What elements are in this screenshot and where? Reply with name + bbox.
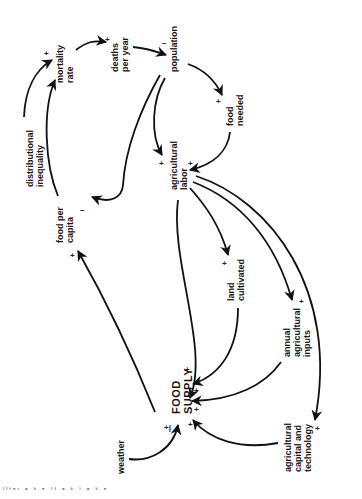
node-population: population (169, 26, 179, 72)
node-annual-agricultural-inputs: annual agricultural inputs (282, 308, 312, 357)
node-land-cultivated: land cultivated (226, 259, 246, 301)
link-food-needed-to-labor (190, 132, 230, 170)
link-food-per-capita-to-mortality (47, 80, 58, 196)
node-deaths-per-year: deaths per year (110, 37, 130, 72)
polarity-sign: + (315, 425, 320, 433)
link-population-to-food-needed (188, 64, 222, 95)
node-label-line: weather (116, 440, 126, 474)
link-land-to-food-supply (193, 308, 238, 384)
node-label-line: inequality (35, 130, 45, 187)
polarity-sign: + (185, 366, 190, 374)
node-agricultural-labor: agricultural labor (169, 141, 189, 190)
node-label-line: capita (65, 207, 75, 243)
figure-caption: ᴵᴵᵗᵉʳ ᵃ ᵏ ᵉ ⁽ᶠ ᵃ ᵏ ⁾ ᵃ ᵏ ᵉ (3, 486, 108, 494)
node-food-per-capita: food per capita (55, 207, 75, 243)
node-distributional-inequality: distributional inequality (25, 130, 45, 187)
node-label-line: SUPPLY (182, 368, 194, 414)
polarity-sign: +| (164, 424, 171, 432)
node-label-line: food per (55, 207, 65, 243)
polarity-sign: + (194, 387, 199, 395)
polarity-sign: + (188, 421, 193, 429)
polarity-sign: + (188, 160, 193, 168)
polarity-sign: + (299, 298, 304, 306)
node-weather: weather (116, 440, 126, 474)
polarity-sign: + (222, 260, 227, 268)
node-label-line: food (225, 94, 235, 126)
polarity-sign: + (44, 50, 49, 58)
node-label-line: agricultural (283, 423, 293, 472)
link-deaths-to-population (133, 47, 166, 55)
link-inputs-to-food-supply (192, 362, 281, 401)
polarity-sign: + (216, 98, 221, 106)
node-label-line: inputs (302, 308, 312, 357)
polarity-sign: + (70, 252, 75, 260)
node-label-line: agricultural (169, 141, 179, 190)
link-technology-to-food-supply (193, 420, 278, 445)
polarity-sign: − (162, 40, 167, 48)
polarity-sign: − (58, 76, 63, 84)
node-label-line: technology (303, 423, 313, 472)
node-food-supply: FOOD SUPPLY (170, 368, 194, 414)
node-label-line: agricultural (292, 308, 302, 357)
node-label-line: land (226, 259, 236, 301)
link-population-to-food-per-capita (92, 75, 160, 200)
polarity-sign: + (194, 406, 199, 414)
node-label-line: capital and (293, 423, 303, 472)
node-label-line: rate (65, 45, 75, 83)
node-label-line: needed (235, 94, 245, 126)
node-label-line: distributional (25, 130, 35, 187)
node-label-line: deaths (110, 37, 120, 72)
node-food-needed: food needed (225, 94, 245, 126)
node-agricultural-capital-and-technology: agricultural capital and technology (283, 423, 313, 472)
link-mortality-to-deaths (76, 41, 106, 50)
polarity-sign: + (105, 36, 110, 44)
polarity-sign: + (159, 160, 164, 168)
polarity-sign: − (80, 207, 85, 215)
node-label-line: cultivated (236, 259, 246, 301)
node-label-line: per year (120, 37, 130, 72)
link-population-to-labor (154, 78, 165, 155)
node-label-line: population (169, 26, 179, 72)
node-label-line: annual (282, 308, 292, 357)
link-food-supply-to-food-per-capita (78, 251, 155, 412)
node-label-line: FOOD (170, 368, 182, 414)
